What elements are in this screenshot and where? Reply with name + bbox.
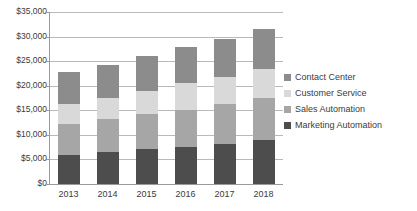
bar-group-2018[interactable] (253, 29, 275, 184)
legend-item[interactable]: Marketing Automation (284, 118, 417, 133)
bar-segment[interactable] (58, 155, 80, 184)
y-axis-tick (45, 37, 50, 38)
legend-swatch-icon (284, 106, 291, 113)
y-axis-tick-label: $15,000 (1, 105, 47, 114)
x-axis-tick-label: 2015 (128, 188, 166, 200)
legend-label: Customer Service (295, 88, 367, 99)
bar-segment[interactable] (175, 83, 197, 110)
bar-segment[interactable] (97, 152, 119, 184)
gridline (49, 184, 283, 185)
x-axis-tick-label: 2017 (206, 188, 244, 200)
bar-segment[interactable] (136, 149, 158, 184)
y-axis-tick (45, 110, 50, 111)
bar-segment[interactable] (214, 144, 236, 184)
bar-segment[interactable] (175, 110, 197, 146)
bar-series-container (49, 12, 283, 184)
y-axis-tick-label: $0 (1, 179, 47, 188)
y-axis-tick (45, 86, 50, 87)
legend-item[interactable]: Sales Automation (284, 102, 417, 117)
legend-swatch-icon (284, 122, 291, 129)
y-axis-labels: $0$5,000$10,000$15,000$20,000$25,000$30,… (0, 0, 47, 211)
y-axis-tick-label: $30,000 (1, 32, 47, 41)
y-axis-tick (45, 159, 50, 160)
legend-swatch-icon (284, 74, 291, 81)
legend-item[interactable]: Contact Center (284, 70, 417, 85)
bar-segment[interactable] (97, 65, 119, 98)
x-axis-tick-label: 2014 (89, 188, 127, 200)
bar-segment[interactable] (253, 98, 275, 140)
bar-group-2016[interactable] (175, 47, 197, 184)
bar-segment[interactable] (136, 91, 158, 115)
stacked-bar-chart: $0$5,000$10,000$15,000$20,000$25,000$30,… (0, 0, 417, 211)
x-axis-labels: 201320142015201620172018 (49, 188, 283, 204)
legend-label: Sales Automation (295, 104, 365, 115)
bar-segment[interactable] (58, 104, 80, 124)
bar-segment[interactable] (214, 39, 236, 77)
bar-group-2013[interactable] (58, 72, 80, 184)
plot-area (49, 12, 283, 184)
y-axis-tick (45, 135, 50, 136)
chart-legend: Contact CenterCustomer ServiceSales Auto… (284, 70, 417, 134)
bar-segment[interactable] (136, 114, 158, 149)
bar-group-2015[interactable] (136, 56, 158, 184)
bar-segment[interactable] (97, 119, 119, 152)
y-axis-tick (45, 61, 50, 62)
y-axis-tick-label: $20,000 (1, 81, 47, 90)
y-axis-tick-label: $5,000 (1, 154, 47, 163)
bar-group-2017[interactable] (214, 39, 236, 184)
bar-group-2014[interactable] (97, 65, 119, 184)
y-axis-tick (45, 184, 50, 185)
bar-segment[interactable] (58, 124, 80, 155)
legend-item[interactable]: Customer Service (284, 86, 417, 101)
bar-segment[interactable] (253, 140, 275, 184)
y-axis-tick-label: $10,000 (1, 130, 47, 139)
y-axis-tick-label: $25,000 (1, 56, 47, 65)
legend-swatch-icon (284, 90, 291, 97)
bar-segment[interactable] (175, 47, 197, 83)
x-axis-tick-label: 2013 (50, 188, 88, 200)
bar-segment[interactable] (253, 29, 275, 69)
bar-segment[interactable] (214, 104, 236, 144)
bar-segment[interactable] (136, 56, 158, 90)
bar-segment[interactable] (214, 77, 236, 104)
y-axis-tick (45, 12, 50, 13)
x-axis-tick-label: 2016 (167, 188, 205, 200)
legend-label: Contact Center (295, 72, 356, 83)
bar-segment[interactable] (97, 98, 119, 119)
legend-label: Marketing Automation (295, 120, 382, 131)
bar-segment[interactable] (175, 147, 197, 184)
x-axis-tick-label: 2018 (245, 188, 283, 200)
bar-segment[interactable] (58, 72, 80, 104)
bar-segment[interactable] (253, 69, 275, 98)
y-axis-tick-label: $35,000 (1, 7, 47, 16)
